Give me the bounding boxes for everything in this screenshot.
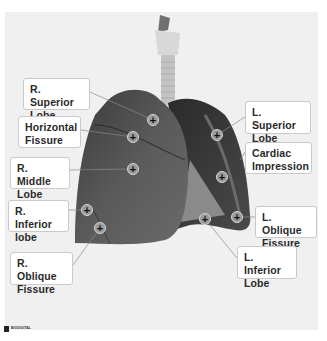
plus-icon: + (219, 172, 225, 183)
label-l-inferior-lobe: L. Inferior Lobe (237, 246, 297, 279)
label-line: Horizontal (25, 121, 74, 134)
label-line: R. Superior (30, 83, 83, 109)
label-l-oblique-fissure: L. Oblique Fissure (255, 206, 317, 238)
label-line: Lobe (244, 277, 290, 290)
marker-l-oblique-fissure[interactable]: + (231, 211, 243, 223)
logo-mark-icon (4, 326, 9, 332)
label-r-middle-lobe: R. Middle Lobe (10, 157, 70, 189)
marker-l-superior-lobe[interactable]: + (211, 129, 223, 141)
plus-icon: + (234, 212, 240, 223)
label-r-oblique-fissure: R. Oblique Fissure (10, 252, 73, 285)
marker-r-inferior-lobe[interactable]: + (81, 204, 93, 216)
label-line: Fissure (25, 134, 74, 147)
plus-icon: + (202, 214, 208, 225)
label-cardiac-impression: Cardiac Impression (245, 142, 312, 174)
plus-icon: + (97, 223, 103, 234)
logo-text: BIODIGITAL (11, 327, 31, 331)
plus-icon: + (214, 130, 220, 141)
label-line: Fissure (17, 283, 66, 296)
plus-icon: + (150, 115, 156, 126)
label-line: Cardiac (252, 147, 305, 160)
label-line: L. Superior (252, 106, 304, 132)
label-line: Impression (252, 160, 305, 173)
label-line: R. Oblique (17, 257, 66, 283)
label-horizontal-fissure: Horizontal Fissure (18, 116, 81, 148)
label-line: L. Inferior (244, 251, 290, 277)
label-r-inferior-lobe: R. Inferior lobe (8, 200, 69, 232)
label-l-superior-lobe: L. Superior Lobe (245, 101, 311, 134)
plus-icon: + (130, 164, 136, 175)
label-line: R. Inferior (15, 205, 62, 231)
marker-horizontal-fissure[interactable]: + (127, 131, 139, 143)
marker-l-inferior-lobe[interactable]: + (199, 213, 211, 225)
label-line: R. Middle (17, 162, 63, 188)
trachea (155, 15, 180, 105)
plus-icon: + (130, 132, 136, 143)
plus-icon: + (84, 205, 90, 216)
marker-r-oblique-fissure[interactable]: + (94, 222, 106, 234)
label-line: lobe (15, 231, 62, 244)
label-line: L. Oblique (262, 211, 310, 237)
marker-r-middle-lobe[interactable]: + (127, 163, 139, 175)
marker-cardiac-impression[interactable]: + (216, 171, 228, 183)
biodigital-logo: BIODIGITAL (4, 326, 31, 332)
marker-r-superior-lobe[interactable]: + (147, 114, 159, 126)
label-r-superior-lobe: R. Superior Lobe (23, 78, 90, 110)
